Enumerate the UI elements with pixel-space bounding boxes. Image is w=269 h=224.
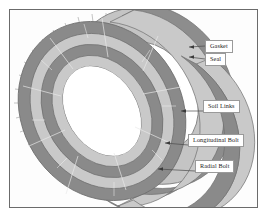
callout-label-gasket: Gasket <box>205 40 233 53</box>
figure-root: Gasket Seal Soil Links Longitudinal Bolt… <box>0 0 269 224</box>
callout-label-soil-links: Soil Links <box>203 100 240 113</box>
callout-label-seal: Seal <box>205 53 226 66</box>
callout-label-longitudinal-bolt: Longitudinal Bolt <box>188 134 244 147</box>
callout-label-radial-bolt: Radial Bolt <box>195 160 234 173</box>
